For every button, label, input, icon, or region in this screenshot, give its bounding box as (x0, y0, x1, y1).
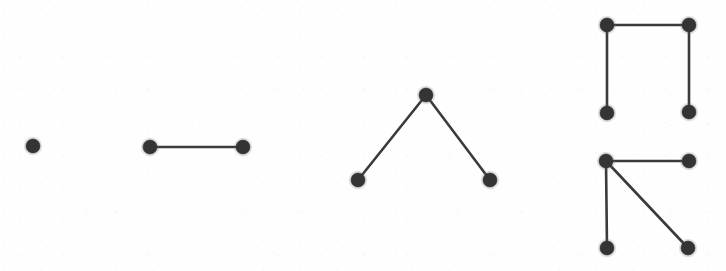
graph-node (599, 154, 613, 168)
graph-edge (426, 95, 490, 180)
graph-node (682, 18, 696, 32)
graph-node (419, 88, 433, 102)
graph-node (600, 106, 614, 120)
graph-nodes-single-vertex (24, 137, 42, 155)
node-layer (24, 16, 698, 257)
graph-node (143, 140, 157, 154)
graph-edges-star-three-leaves (606, 161, 689, 248)
graph-node (681, 241, 695, 255)
figure-canvas (0, 0, 726, 271)
graph-edges-path-three-vertices (358, 95, 490, 180)
graph-edge (358, 95, 426, 180)
graph-node (682, 154, 696, 168)
graph-node (600, 241, 614, 255)
graph-node (600, 18, 614, 32)
edge-layer (150, 25, 689, 248)
graph-edge (606, 161, 688, 248)
graph-edges-path-four-vertices (607, 25, 689, 113)
graph-node (483, 173, 497, 187)
graph-edge (606, 161, 607, 248)
graph-node (351, 173, 365, 187)
graph-nodes-path-three-vertices (349, 86, 499, 189)
graph-node (26, 139, 40, 153)
graph-node (682, 105, 696, 119)
graph-nodes-path-four-vertices (598, 16, 698, 122)
graph-node (236, 140, 250, 154)
graph-collection-svg (0, 0, 726, 271)
